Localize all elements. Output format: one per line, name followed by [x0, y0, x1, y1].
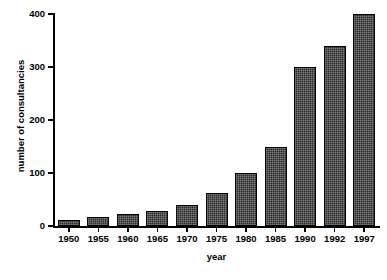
bar: [146, 211, 168, 226]
bars-container: [54, 14, 379, 226]
y-axis-tick: 400: [0, 8, 54, 20]
x-axis-tick-mark: [334, 227, 336, 232]
x-axis-tick-label: 1997: [344, 233, 384, 244]
y-axis-tick-label: 300: [29, 61, 45, 73]
x-axis-tick-mark: [304, 227, 306, 232]
bar: [117, 214, 139, 226]
y-axis-tick-label: 100: [29, 167, 45, 179]
bar: [58, 220, 80, 226]
bar: [353, 14, 375, 226]
x-axis-tick-mark: [186, 227, 188, 232]
x-axis-tick-mark: [245, 227, 247, 232]
bar: [87, 217, 109, 226]
bar: [206, 193, 228, 226]
x-axis-tick-mark: [127, 227, 129, 232]
x-axis-tick-mark: [157, 227, 159, 232]
y-axis-tick-label: 200: [29, 114, 45, 126]
y-axis-tick: 0: [0, 220, 54, 232]
bar: [294, 67, 316, 226]
bar: [265, 147, 287, 227]
x-axis-tick-mark: [275, 227, 277, 232]
y-axis-tick: 200: [0, 114, 54, 126]
x-axis-title: year: [54, 251, 379, 262]
y-axis-tick-label: 400: [29, 8, 45, 20]
x-axis-tick-mark: [363, 227, 365, 232]
x-axis-ticks: 1950195519601965197019751980198519901992…: [54, 227, 379, 249]
y-axis-tick: 300: [0, 61, 54, 73]
y-axis-tick-label: 0: [40, 220, 45, 232]
bar: [176, 205, 198, 226]
x-axis-tick: 1997: [344, 227, 384, 249]
x-axis-tick-mark: [68, 227, 70, 232]
y-axis-tick: 100: [0, 167, 54, 179]
bar: [235, 173, 257, 226]
bar-chart-figure: number of consultancies 0100200300400 19…: [0, 0, 387, 280]
x-axis-tick-mark: [216, 227, 218, 232]
bar: [324, 46, 346, 226]
x-axis-tick-mark: [98, 227, 100, 232]
